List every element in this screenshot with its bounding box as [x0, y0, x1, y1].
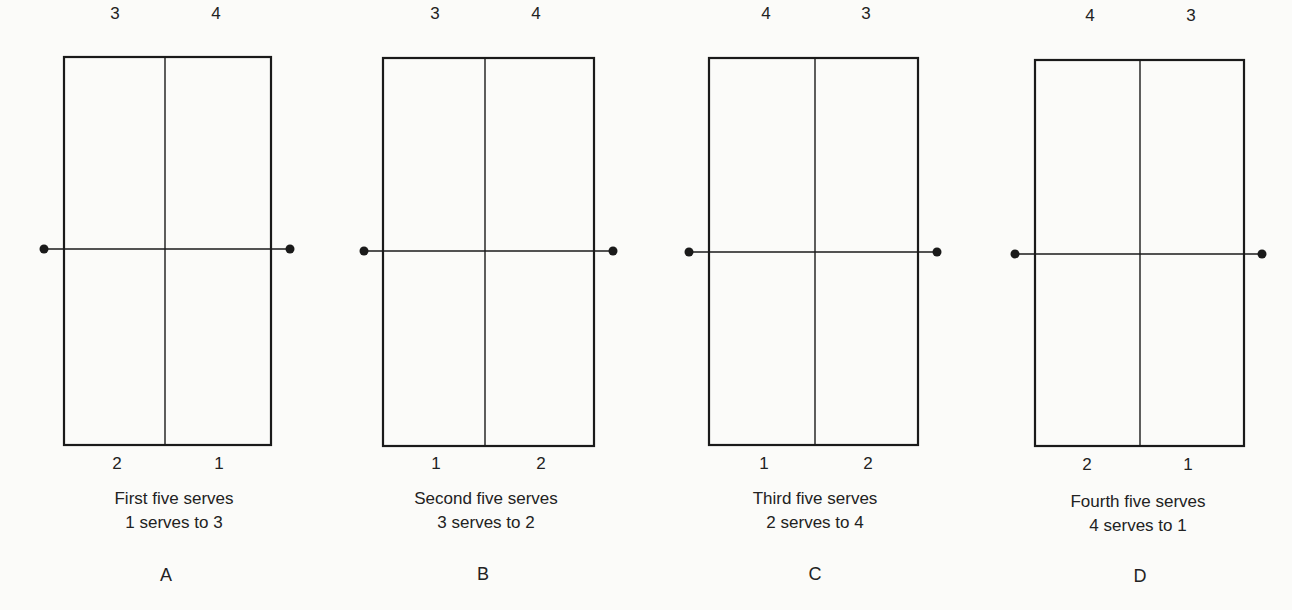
caption-line-1: Fourth five serves	[1070, 490, 1205, 514]
position-label-bottom-left: 2	[112, 455, 121, 473]
position-label-top-right: 4	[531, 5, 540, 23]
position-label-top-right: 3	[861, 5, 870, 23]
position-label-bottom-left: 2	[1082, 456, 1091, 474]
caption-line-1: First five serves	[114, 487, 233, 511]
position-label-bottom-right: 1	[1183, 456, 1192, 474]
position-label-top-left: 4	[1085, 7, 1094, 25]
caption-line-2: 3 serves to 2	[414, 511, 558, 535]
panel-letter: D	[1134, 566, 1147, 587]
net-post-left-icon	[40, 245, 49, 254]
position-label-top-left: 3	[110, 5, 119, 23]
caption-line-1: Second five serves	[414, 487, 558, 511]
serve-rotation-figure: 3 4 2 1 First five serves 1 serves to 3 …	[0, 0, 1292, 610]
position-label-top-left: 3	[430, 5, 439, 23]
position-label-bottom-left: 1	[431, 455, 440, 473]
panel-caption: Third five serves 2 serves to 4	[753, 487, 878, 535]
position-label-top-right: 3	[1186, 7, 1195, 25]
net-post-right-icon	[933, 248, 942, 257]
caption-line-2: 4 serves to 1	[1070, 514, 1205, 538]
net-post-left-icon	[685, 248, 694, 257]
position-label-bottom-left: 1	[759, 455, 768, 473]
panel-caption: Fourth five serves 4 serves to 1	[1070, 490, 1205, 538]
panel-letter: C	[809, 564, 822, 585]
panel-caption: Second five serves 3 serves to 2	[414, 487, 558, 535]
court-boundary	[64, 57, 271, 445]
panel-letter: A	[160, 565, 172, 586]
position-label-bottom-right: 2	[863, 455, 872, 473]
position-label-bottom-right: 1	[214, 455, 223, 473]
panel-caption: First five serves 1 serves to 3	[114, 487, 233, 535]
court-boundary	[383, 58, 594, 446]
net-post-left-icon	[360, 247, 369, 256]
position-label-top-right: 4	[211, 5, 220, 23]
net-post-left-icon	[1011, 250, 1020, 259]
net-post-right-icon	[286, 245, 295, 254]
panel-letter: B	[477, 564, 489, 585]
caption-line-1: Third five serves	[753, 487, 878, 511]
caption-line-2: 1 serves to 3	[114, 511, 233, 535]
net-post-right-icon	[1258, 250, 1267, 259]
position-label-bottom-right: 2	[536, 455, 545, 473]
caption-line-2: 2 serves to 4	[753, 511, 878, 535]
position-label-top-left: 4	[761, 5, 770, 23]
net-post-right-icon	[609, 247, 618, 256]
